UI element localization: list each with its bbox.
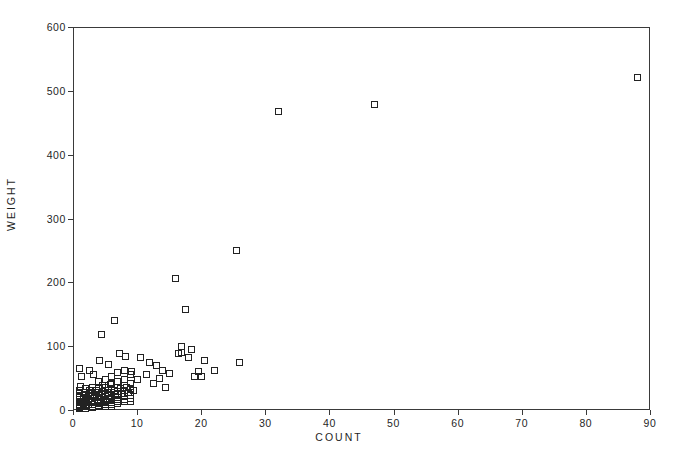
y-axis-tick-label: 100 <box>26 340 66 352</box>
y-axis-tick-label: 600 <box>26 21 66 33</box>
y-axis-tick <box>68 346 73 347</box>
x-axis-tick-label: 10 <box>117 417 157 429</box>
x-axis-tick-label: 20 <box>181 417 221 429</box>
x-axis-label: COUNT <box>0 431 678 443</box>
x-axis-tick <box>201 410 202 415</box>
y-axis-tick <box>68 282 73 283</box>
plot-frame <box>73 27 650 410</box>
y-axis-tick <box>68 410 73 411</box>
y-axis-tick <box>68 155 73 156</box>
x-axis-tick-label: 40 <box>309 417 349 429</box>
x-axis-tick-label: 60 <box>438 417 478 429</box>
x-axis-tick <box>458 410 459 415</box>
x-axis-tick-label: 90 <box>630 417 670 429</box>
y-axis-label: WEIGHT <box>5 174 17 234</box>
scatter-plot-figure: 01020304050607080900100200300400500600 C… <box>0 0 678 455</box>
y-axis-tick-label: 200 <box>26 276 66 288</box>
x-axis-tick-label: 30 <box>245 417 285 429</box>
x-axis-tick-label: 0 <box>53 417 93 429</box>
y-axis-tick-label: 400 <box>26 149 66 161</box>
x-axis-tick-label: 50 <box>374 417 414 429</box>
y-axis-tick <box>68 91 73 92</box>
x-axis-tick <box>586 410 587 415</box>
x-axis-tick <box>329 410 330 415</box>
y-axis-tick-label: 0 <box>26 404 66 416</box>
x-axis-tick-label: 70 <box>502 417 542 429</box>
x-axis-tick <box>137 410 138 415</box>
x-axis-tick <box>73 410 74 415</box>
x-axis-tick <box>522 410 523 415</box>
x-axis-tick-label: 80 <box>566 417 606 429</box>
y-axis-tick-label: 500 <box>26 85 66 97</box>
y-axis-tick <box>68 27 73 28</box>
y-axis-tick-label: 300 <box>26 213 66 225</box>
y-axis-tick <box>68 219 73 220</box>
x-axis-tick <box>394 410 395 415</box>
x-axis-tick <box>265 410 266 415</box>
x-axis-tick <box>650 410 651 415</box>
